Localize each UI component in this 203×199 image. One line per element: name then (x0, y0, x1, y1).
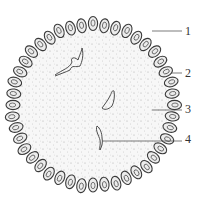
label-2: 2 (185, 67, 191, 79)
peripheral-cell (6, 100, 20, 109)
colony-body (17, 29, 169, 181)
peripheral-cell (168, 100, 182, 109)
label-1: 1 (185, 25, 191, 37)
peripheral-cell (88, 178, 97, 192)
label-3: 3 (185, 103, 191, 115)
colony-cross-section-diagram (0, 0, 203, 199)
peripheral-cell (88, 17, 97, 31)
peripheral-cell (76, 178, 87, 193)
peripheral-cell (5, 111, 20, 122)
label-4: 4 (185, 133, 191, 145)
